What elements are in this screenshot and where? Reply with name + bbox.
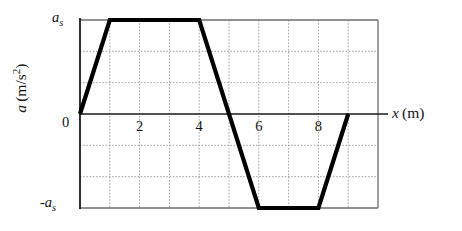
y-axis-exponent: 2: [10, 69, 22, 75]
y-axis-units: (m/s: [12, 74, 29, 102]
x-axis-symbol: x: [392, 104, 399, 121]
y-axis-units-close: ): [12, 64, 29, 69]
y-tick-neg-as-subscript: s: [52, 202, 56, 213]
x-tick-label-4: 4: [189, 118, 209, 135]
x-tick-label-8: 8: [308, 118, 328, 135]
y-tick-neg-as-symbol: a: [45, 194, 52, 210]
x-axis-label: x (m): [392, 104, 424, 122]
y-tick-label-zero: 0: [62, 114, 69, 131]
y-tick-label-negative-as: -as: [40, 194, 56, 213]
chart-figure: a (m/s2) x (m) as 0 -as 2 4 6 8: [0, 0, 462, 231]
y-tick-as-subscript: s: [59, 17, 63, 28]
y-tick-label-as: as: [52, 9, 63, 28]
x-tick-label-6: 6: [249, 118, 269, 135]
y-axis-label: a (m/s2): [10, 38, 30, 138]
y-axis-symbol: a: [12, 105, 29, 113]
x-axis-units: (m): [402, 104, 424, 121]
x-tick-label-2: 2: [130, 118, 150, 135]
